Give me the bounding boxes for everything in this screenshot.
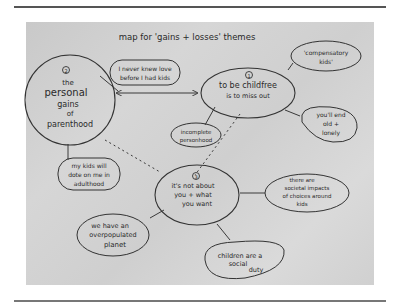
node-never-knew-love: I never knew love before I had kids — [110, 60, 180, 85]
svg-text:my kids will: my kids will — [71, 162, 107, 170]
edge-childfree-compensatory — [288, 63, 293, 70]
svg-text:children are a: children are a — [218, 252, 263, 260]
node-dote: my kids will dote on me in adulthood — [58, 158, 120, 190]
svg-text:to be childfree: to be childfree — [219, 81, 277, 90]
svg-text:you + what: you + what — [174, 191, 212, 199]
svg-text:you want: you want — [182, 200, 212, 208]
edge-not-about-you-social-duty — [217, 224, 230, 240]
svg-text:we have an: we have an — [91, 222, 129, 230]
bottom-rule — [14, 300, 386, 302]
node-societal: there are societal impacts of choices ar… — [265, 174, 349, 212]
svg-text:3: 3 — [194, 174, 197, 180]
svg-text:the: the — [62, 79, 74, 87]
svg-text:duty: duty — [249, 266, 264, 274]
svg-text:it's not about: it's not about — [171, 182, 215, 190]
svg-text:1: 1 — [247, 73, 250, 79]
svg-text:overpopulated: overpopulated — [89, 231, 136, 239]
svg-text:societal impacts: societal impacts — [285, 185, 330, 192]
svg-text:lonely: lonely — [322, 129, 340, 137]
node-not-about-you: 3 it's not about you + what you want — [155, 165, 239, 225]
svg-text:parenthood: parenthood — [47, 120, 93, 129]
svg-text:is to miss out: is to miss out — [226, 92, 270, 100]
svg-text:old +: old + — [323, 120, 339, 127]
svg-text:incomplete: incomplete — [181, 129, 212, 136]
svg-text:before I had kids: before I had kids — [120, 74, 170, 81]
node-childfree: 1 to be childfree is to miss out — [201, 68, 295, 118]
svg-text:kids: kids — [296, 201, 307, 207]
svg-text:personal: personal — [44, 87, 87, 98]
svg-text:personhood: personhood — [180, 137, 213, 144]
svg-text:you'll end: you'll end — [316, 111, 345, 119]
svg-text:'compensatory: 'compensatory — [304, 49, 349, 57]
node-social-duty: children are a social duty — [205, 241, 284, 279]
svg-text:planet: planet — [104, 241, 126, 249]
diagram-title: map for 'gains + losses' themes — [119, 32, 256, 42]
svg-text:adulthood: adulthood — [74, 180, 104, 187]
mind-map: map for 'gains + losses' themes 2 the pe… — [0, 0, 397, 305]
svg-text:social: social — [229, 260, 248, 268]
edge-parenthood-not-about-you — [105, 140, 160, 172]
node-overpopulated: we have an overpopulated planet — [77, 214, 149, 256]
svg-text:of: of — [67, 110, 74, 118]
node-parenthood: 2 the personal gains of parenthood — [25, 55, 115, 145]
node-old-lonely: you'll end old + lonely — [302, 107, 357, 142]
svg-text:there are: there are — [289, 177, 315, 183]
svg-text:of choices around: of choices around — [283, 193, 332, 199]
svg-text:2: 2 — [64, 68, 67, 74]
svg-text:I never knew love: I never knew love — [118, 65, 171, 72]
svg-text:kids': kids' — [319, 58, 333, 65]
svg-text:gains: gains — [57, 100, 78, 109]
svg-text:dote on me in: dote on me in — [68, 171, 110, 178]
node-compensatory: 'compensatory kids' — [291, 41, 361, 71]
node-incomplete: incomplete personhood — [171, 123, 221, 147]
edge-childfree-old-lonely — [285, 110, 300, 116]
